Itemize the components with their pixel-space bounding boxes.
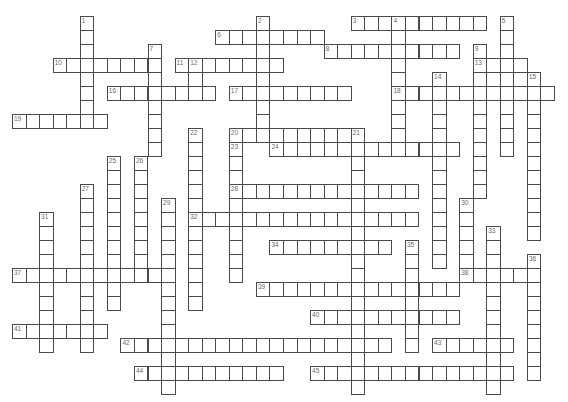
grid-cell[interactable] xyxy=(66,58,81,73)
grid-cell[interactable] xyxy=(459,338,474,353)
cell-letter-input[interactable] xyxy=(27,325,40,338)
grid-cell[interactable] xyxy=(351,380,366,395)
cell-letter-input[interactable] xyxy=(325,213,338,226)
cell-letter-input[interactable] xyxy=(528,199,541,212)
cell-letter-input[interactable] xyxy=(162,353,175,366)
grid-cell[interactable] xyxy=(391,72,406,87)
cell-letter-input[interactable] xyxy=(162,87,175,100)
cell-letter-input[interactable] xyxy=(108,185,121,198)
cell-letter-input[interactable] xyxy=(406,269,419,282)
cell-letter-input[interactable] xyxy=(406,339,419,352)
grid-cell[interactable] xyxy=(459,226,474,241)
grid-cell[interactable] xyxy=(432,114,447,129)
cell-letter-input[interactable] xyxy=(230,255,243,268)
grid-cell[interactable] xyxy=(432,366,447,381)
cell-letter-input[interactable] xyxy=(338,241,351,254)
grid-cell[interactable]: 17 xyxy=(229,86,244,101)
grid-cell[interactable] xyxy=(134,268,149,283)
grid-cell[interactable]: 44 xyxy=(134,366,149,381)
grid-cell[interactable] xyxy=(432,310,447,325)
cell-letter-input[interactable] xyxy=(162,255,175,268)
cell-letter-input[interactable] xyxy=(379,283,392,296)
cell-letter-input[interactable] xyxy=(40,297,53,310)
grid-cell[interactable] xyxy=(527,324,542,339)
cell-letter-input[interactable] xyxy=(121,269,134,282)
grid-cell[interactable] xyxy=(93,324,108,339)
grid-cell[interactable] xyxy=(148,142,163,157)
grid-cell[interactable] xyxy=(351,268,366,283)
grid-cell[interactable] xyxy=(161,282,176,297)
grid-cell[interactable] xyxy=(107,296,122,311)
cell-letter-input[interactable] xyxy=(284,241,297,254)
cell-letter-input[interactable] xyxy=(528,185,541,198)
grid-cell[interactable] xyxy=(215,366,230,381)
grid-cell[interactable]: 30 xyxy=(459,198,474,213)
grid-cell[interactable] xyxy=(473,184,488,199)
grid-cell[interactable] xyxy=(378,16,393,31)
cell-letter-input[interactable] xyxy=(352,157,365,170)
cell-letter-input[interactable] xyxy=(325,185,338,198)
cell-letter-input[interactable] xyxy=(352,171,365,184)
grid-cell[interactable] xyxy=(53,324,68,339)
grid-cell[interactable] xyxy=(188,240,203,255)
cell-letter-input[interactable] xyxy=(67,59,80,72)
grid-cell[interactable] xyxy=(283,30,298,45)
cell-letter-input[interactable] xyxy=(501,143,514,156)
cell-letter-input[interactable] xyxy=(189,241,202,254)
cell-letter-input[interactable] xyxy=(284,185,297,198)
grid-cell[interactable] xyxy=(188,254,203,269)
grid-cell[interactable] xyxy=(256,114,271,129)
grid-cell[interactable] xyxy=(527,86,542,101)
grid-cell[interactable] xyxy=(432,282,447,297)
grid-cell[interactable]: 11 xyxy=(175,58,190,73)
grid-cell[interactable] xyxy=(446,142,461,157)
cell-letter-input[interactable] xyxy=(284,213,297,226)
cell-letter-input[interactable] xyxy=(487,241,500,254)
cell-letter-input[interactable] xyxy=(230,367,243,380)
cell-letter-input[interactable] xyxy=(230,143,243,156)
grid-cell[interactable] xyxy=(486,310,501,325)
grid-cell[interactable] xyxy=(39,324,54,339)
grid-cell[interactable] xyxy=(351,240,366,255)
cell-letter-input[interactable] xyxy=(474,171,487,184)
cell-letter-input[interactable] xyxy=(257,101,270,114)
grid-cell[interactable]: 34 xyxy=(269,240,284,255)
cell-letter-input[interactable] xyxy=(447,87,460,100)
grid-cell[interactable]: 45 xyxy=(310,366,325,381)
grid-cell[interactable] xyxy=(107,226,122,241)
cell-letter-input[interactable] xyxy=(243,339,256,352)
cell-letter-input[interactable] xyxy=(460,17,473,30)
grid-cell[interactable] xyxy=(459,240,474,255)
grid-cell[interactable] xyxy=(446,338,461,353)
grid-cell[interactable] xyxy=(107,212,122,227)
grid-cell[interactable] xyxy=(432,44,447,59)
cell-letter-input[interactable] xyxy=(189,227,202,240)
grid-cell[interactable] xyxy=(80,72,95,87)
cell-letter-input[interactable] xyxy=(176,59,189,72)
cell-letter-input[interactable] xyxy=(311,31,324,44)
grid-cell[interactable]: 5 xyxy=(500,16,515,31)
cell-letter-input[interactable] xyxy=(311,339,324,352)
grid-cell[interactable] xyxy=(297,30,312,45)
grid-cell[interactable] xyxy=(364,16,379,31)
cell-letter-input[interactable] xyxy=(460,367,473,380)
grid-cell[interactable] xyxy=(148,338,163,353)
grid-cell[interactable]: 15 xyxy=(527,72,542,87)
grid-cell[interactable] xyxy=(107,268,122,283)
cell-letter-input[interactable] xyxy=(487,269,500,282)
grid-cell[interactable] xyxy=(486,268,501,283)
cell-letter-input[interactable] xyxy=(501,269,514,282)
grid-cell[interactable] xyxy=(486,282,501,297)
grid-cell[interactable] xyxy=(66,268,81,283)
cell-letter-input[interactable] xyxy=(460,227,473,240)
grid-cell[interactable] xyxy=(107,184,122,199)
grid-cell[interactable] xyxy=(229,366,244,381)
grid-cell[interactable] xyxy=(391,30,406,45)
cell-letter-input[interactable] xyxy=(487,381,500,394)
cell-letter-input[interactable] xyxy=(352,241,365,254)
cell-letter-input[interactable] xyxy=(379,17,392,30)
cell-letter-input[interactable] xyxy=(40,213,53,226)
grid-cell[interactable] xyxy=(513,58,528,73)
cell-letter-input[interactable] xyxy=(94,269,107,282)
cell-letter-input[interactable] xyxy=(108,171,121,184)
